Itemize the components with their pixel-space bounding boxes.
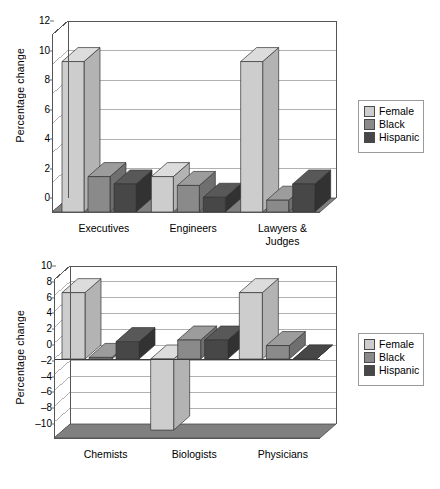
- y-tick-top-2: 4: [44, 134, 50, 144]
- chart-bottom: Percentage change –10–8–6–4–20246810 Che…: [0, 250, 440, 489]
- legend-swatch-hispanic-icon: [364, 365, 375, 376]
- legend-swatch-hispanic-icon: [364, 132, 375, 143]
- x-axis-labels-top: ExecutivesEngineersLawyers &Judges: [52, 222, 352, 250]
- chart-top: Percentage change 024681012 ExecutivesEn…: [0, 0, 440, 250]
- legend-swatch-black-icon: [364, 119, 375, 130]
- legend-item-hispanic: Hispanic: [364, 364, 417, 377]
- legend-label-black: Black: [379, 352, 405, 363]
- y-axis-title-bottom: Percentage change: [14, 310, 26, 404]
- x-label-top-2: Lawyers &Judges: [228, 222, 338, 247]
- bar-top-LawyersJudges-female: [241, 48, 279, 212]
- y-axis-title-top: Percentage change: [14, 48, 26, 142]
- y-tick-bottom-5: 0: [46, 340, 52, 350]
- legend-swatch-female-icon: [364, 339, 375, 350]
- plot-svg-top: [52, 0, 352, 250]
- y-tick-top-6: 12: [39, 16, 50, 26]
- x-label-line: Physicians: [228, 448, 338, 461]
- legend-swatch-black-icon: [364, 352, 375, 363]
- y-tick-top-0: 0: [44, 193, 50, 203]
- legend-swatch-female-icon: [364, 106, 375, 117]
- legend-label-female: Female: [379, 106, 414, 117]
- y-tick-bottom-6: 2: [46, 324, 52, 334]
- y-tick-top-1: 2: [44, 164, 50, 174]
- y-tick-bottom-7: 4: [46, 308, 52, 318]
- y-tick-top-5: 10: [39, 46, 50, 56]
- figure-two-bar-charts: Percentage change 024681012 ExecutivesEn…: [0, 0, 440, 489]
- y-tick-bottom-8: 6: [46, 293, 52, 303]
- x-axis-labels-bottom: ChemistsBiologistsPhysicians: [54, 448, 354, 476]
- legend-item-hispanic: Hispanic: [364, 131, 417, 144]
- y-axis-ticks-bottom: –10–8–6–4–20246810: [28, 250, 52, 489]
- y-tick-bottom-1: –8: [41, 403, 52, 413]
- x-label-line: Lawyers &: [228, 222, 338, 235]
- legend-label-female: Female: [379, 339, 414, 350]
- x-label-bottom-2: Physicians: [228, 448, 338, 461]
- y-axis-ticks-top: 024681012: [28, 0, 50, 250]
- y-tick-bottom-3: –4: [41, 372, 52, 382]
- legend-label-hispanic: Hispanic: [379, 365, 419, 376]
- y-tick-bottom-9: 8: [46, 277, 52, 287]
- bar-bottom-Chemists-female: [62, 279, 101, 359]
- legend-label-black: Black: [379, 119, 405, 130]
- plot-area-top: [52, 0, 342, 250]
- legend-bottom: FemaleBlackHispanic: [358, 333, 424, 386]
- legend-item-black: Black: [364, 118, 417, 131]
- y-tick-bottom-2: –6: [41, 387, 52, 397]
- legend-item-female: Female: [364, 105, 417, 118]
- y-tick-top-4: 8: [44, 75, 50, 85]
- y-tick-bottom-4: –2: [41, 356, 52, 366]
- y-tick-bottom-10: 10: [41, 261, 52, 271]
- y-tick-top-3: 6: [44, 105, 50, 115]
- floor-slab: [54, 424, 336, 438]
- y-tick-bottom-0: –10: [35, 419, 52, 429]
- x-label-line: Judges: [228, 235, 338, 248]
- legend-label-hispanic: Hispanic: [379, 132, 419, 143]
- legend-item-black: Black: [364, 351, 417, 364]
- legend-top: FemaleBlackHispanic: [358, 100, 424, 153]
- legend-item-female: Female: [364, 338, 417, 351]
